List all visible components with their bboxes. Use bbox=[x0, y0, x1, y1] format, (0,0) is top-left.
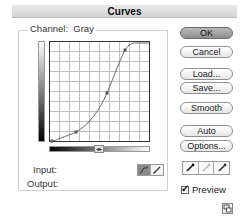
curve-point[interactable] bbox=[51, 140, 54, 143]
eyedropper-white-icon[interactable] bbox=[213, 162, 229, 174]
load-button[interactable]: Load... bbox=[180, 68, 233, 80]
channel-label: Channel: bbox=[30, 23, 68, 34]
preview-label: Preview bbox=[192, 184, 226, 195]
curve-tool-icon[interactable] bbox=[138, 165, 150, 175]
input-label: Input: bbox=[33, 164, 57, 175]
preview-checkbox[interactable] bbox=[181, 186, 189, 194]
expand-graph-icon[interactable] bbox=[222, 203, 233, 214]
curve-point[interactable] bbox=[75, 131, 78, 134]
eyedropper-black-icon[interactable] bbox=[183, 162, 198, 174]
dialog-title-bar: Curves bbox=[12, 5, 237, 18]
options-button[interactable]: Options... bbox=[180, 140, 233, 152]
dialog-title: Curves bbox=[108, 6, 142, 17]
curve-tool-toggle bbox=[137, 164, 164, 176]
curve-line bbox=[50, 42, 151, 143]
output-gradient-bar bbox=[38, 41, 45, 142]
curves-graph[interactable] bbox=[49, 41, 150, 142]
cancel-button[interactable]: Cancel bbox=[180, 46, 233, 58]
output-label: Output: bbox=[27, 178, 58, 189]
smooth-button[interactable]: Smooth bbox=[180, 102, 233, 114]
channel-selector[interactable]: Channel: Gray bbox=[28, 23, 96, 35]
save-button[interactable]: Save... bbox=[180, 82, 233, 94]
eyedropper-group bbox=[182, 161, 230, 175]
channel-value: Gray bbox=[73, 23, 94, 34]
ok-button[interactable]: OK bbox=[180, 27, 233, 39]
pencil-icon[interactable] bbox=[150, 165, 163, 175]
auto-button[interactable]: Auto bbox=[180, 125, 233, 137]
eyedropper-gray-icon[interactable] bbox=[198, 162, 214, 174]
curve-point[interactable] bbox=[124, 49, 127, 52]
preview-checkbox-row[interactable]: Preview bbox=[181, 184, 226, 195]
swap-gradient-icon[interactable]: ◂▸ bbox=[94, 145, 104, 153]
curve-point[interactable] bbox=[106, 92, 109, 95]
